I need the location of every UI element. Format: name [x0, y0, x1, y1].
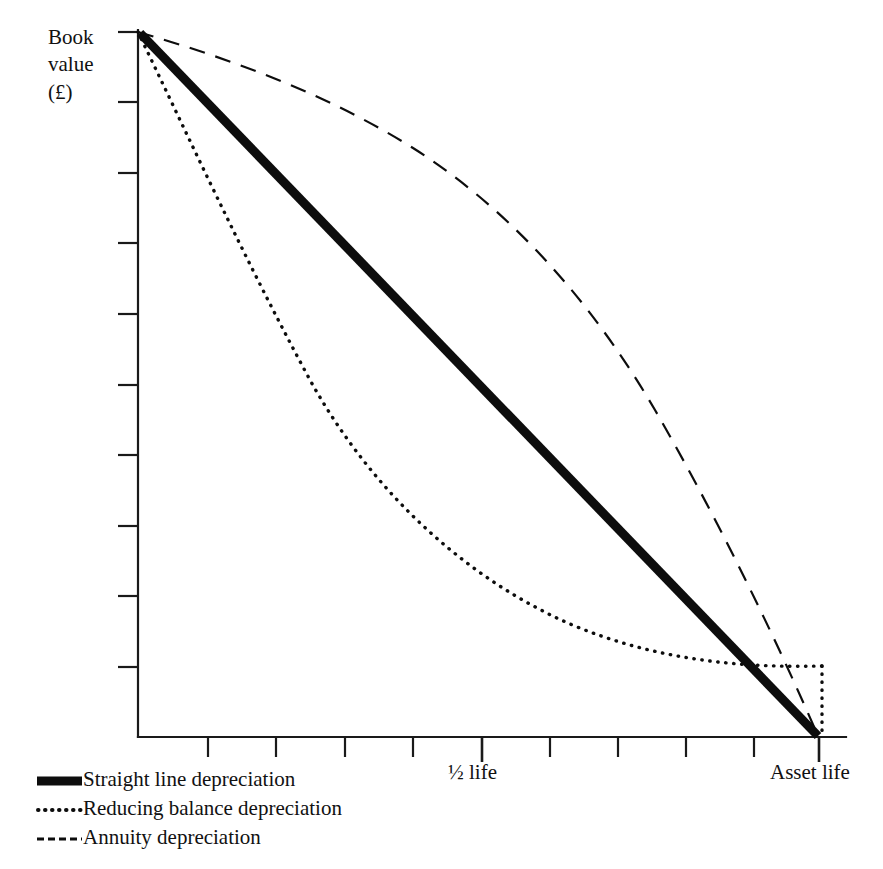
y-axis-title: Book value (£): [48, 24, 134, 106]
chart-canvas: [0, 0, 883, 869]
legend-label-annuity: Annuity depreciation: [83, 827, 261, 850]
legend: Straight line depreciation Reducing bala…: [36, 766, 556, 853]
legend-item-annuity: Annuity depreciation: [36, 824, 556, 853]
legend-swatch-dotted-icon: [36, 800, 83, 820]
legend-item-reducing-balance: Reducing balance depreciation: [36, 795, 556, 824]
x-tick-label-asset-life: Asset life: [770, 760, 850, 785]
x-axis-ticks: [208, 737, 819, 762]
legend-item-straight-line: Straight line depreciation: [36, 766, 556, 795]
depreciation-chart-figure: Book value (£) ½ life Asset life Straigh…: [0, 0, 883, 869]
legend-swatch-solid-thick-icon: [36, 771, 83, 791]
series-straight-line-depreciation: [140, 33, 818, 736]
legend-label-reducing-balance: Reducing balance depreciation: [83, 798, 342, 821]
y-axis-ticks: [118, 32, 138, 667]
legend-swatch-dashed-icon: [36, 829, 83, 849]
legend-label-straight-line: Straight line depreciation: [83, 769, 295, 792]
